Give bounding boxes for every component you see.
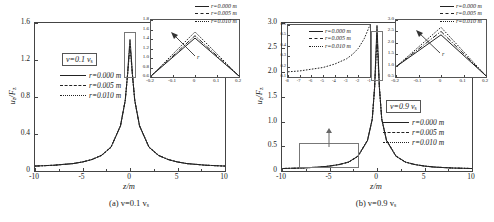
y-tick-label: 1.6 (8, 18, 30, 26)
legend-label: r=0.000 m (325, 28, 351, 34)
x-tick-label: 0 (127, 173, 131, 181)
y-tick-label: 0.4 (8, 129, 30, 137)
legend-item: r=0.010 m (440, 17, 482, 25)
inset-y-tick-label: 2.5 (380, 26, 394, 34)
x-tick-label: -5 (325, 173, 331, 181)
velocity-label-b: v=0.9 vs (386, 100, 421, 113)
x-tick (178, 168, 179, 171)
inset-x-tick-label: -1 (367, 77, 371, 85)
inset-y-tick-label: 0.1 (272, 72, 286, 80)
inset-y-tick-label: 1.6 (135, 25, 149, 33)
legend-item: r=0.000 m (309, 27, 351, 35)
y-tick (282, 146, 285, 147)
legend-label: r=0.000 m (456, 3, 482, 9)
inset-y-tick-label: 0.8 (135, 63, 149, 71)
inset-y-tick (288, 56, 290, 57)
panel-caption-a: (a) v=0.1 vs (109, 198, 149, 208)
inset-right-legend-b: r=0.000 m r=0.005 m r=0.010 m (440, 2, 482, 25)
x-tick (330, 168, 331, 171)
inset-x-tick-label: 0.2 (235, 77, 241, 85)
x-tick-minor (59, 169, 60, 171)
legend-label: r=0.005 m (211, 10, 237, 16)
y-tick-label: 0 (255, 166, 277, 174)
legend-item: r=0.005 m (440, 10, 482, 18)
x-axis-title-b: z/m (370, 181, 382, 191)
legend-item: r=0.000 m (383, 117, 444, 127)
inset-x-tick-label: -7 (297, 77, 301, 85)
y-tick (35, 23, 38, 24)
inset-plot-right-b: r (395, 19, 487, 78)
legend-label: r=0.010 m (456, 18, 482, 24)
inset-x-tick-label: -6 (309, 77, 313, 85)
inset-y-tick (396, 66, 398, 67)
inset-y-tick-label: 1.0 (135, 53, 149, 61)
inset-y-tick (396, 20, 398, 21)
inset-y-tick-label: 0.3 (272, 51, 286, 59)
y-tick-label: 0 (8, 166, 30, 174)
inset-y-tick-label: 1.5 (380, 49, 394, 57)
inset-x-tick-label: 0 (193, 77, 196, 85)
legend-label: r=0.010 m (211, 18, 237, 24)
x-tick-label: 5 (422, 173, 426, 181)
inset-x-tick-label: 0.2 (482, 77, 488, 85)
inset-left-legend-b: r=0.000 m r=0.005 m r=0.010 m (309, 27, 351, 50)
legend-b: r=0.000 m r=0.005 m r=0.010 m (383, 117, 444, 147)
legend-label: r=0.005 m (325, 35, 351, 41)
x-tick-minor (306, 169, 307, 171)
inset-x-tick-label: -0.1 (414, 77, 422, 85)
legend-item: r=0.010 m (383, 137, 444, 147)
x-tick-minor (401, 169, 402, 171)
x-axis-title-a: z/m (123, 181, 135, 191)
inset-y-tick-label: 2.0 (380, 38, 394, 46)
y-tick (282, 97, 285, 98)
svg-text:r: r (197, 54, 200, 60)
x-tick-label: 10 (220, 173, 228, 181)
x-tick-minor (201, 169, 202, 171)
inset-y-tick (151, 49, 153, 50)
inset-y-tick-label: 0.5 (272, 30, 286, 38)
inset-y-tick (151, 58, 153, 59)
x-tick-minor (448, 169, 449, 171)
inset-y-tick-label: 1.0 (380, 61, 394, 69)
legend-label: r=0.005 m (456, 10, 482, 16)
x-tick-label: 5 (175, 173, 179, 181)
inset-y-tick-label: 1.4 (135, 34, 149, 42)
inset-x-tick-label: 0 (439, 77, 442, 85)
panel-a: uz/Fz z/m (a) v=0.1 vs v=0.1 vs r=0.000 … (0, 0, 247, 222)
x-tick-label: -10 (276, 173, 286, 181)
x-tick (377, 168, 378, 171)
x-tick (472, 168, 473, 171)
legend-label: r=0.000 m (412, 118, 444, 127)
inset-x-tick-label: -3 (344, 77, 348, 85)
legend-label: r=0.005 m (89, 81, 121, 90)
x-tick-minor (154, 169, 155, 171)
legend-item: r=0.005 m (195, 10, 237, 18)
inset-right-curves-b: r (396, 20, 486, 77)
y-tick (35, 60, 38, 61)
x-tick-label: -10 (29, 173, 39, 181)
legend-item: r=0.005 m (309, 35, 351, 43)
legend-item: r=0.000 m (440, 2, 482, 10)
legend-label: r=0.010 m (325, 43, 351, 49)
x-tick-minor (353, 169, 354, 171)
legend-label: r=0.000 m (89, 71, 121, 80)
inset-y-tick (396, 54, 398, 55)
legend-item: r=0.000 m (60, 70, 121, 80)
panel-caption-b: (b) v=0.9 vs (356, 198, 396, 208)
inset-x-tick-label: -2 (355, 77, 359, 85)
legend-item: r=0.005 m (60, 80, 121, 90)
inset-y-tick-label: 0.2 (272, 62, 286, 70)
inset-y-tick (288, 35, 290, 36)
x-tick (425, 168, 426, 171)
inset-y-tick-label: 1.8 (135, 15, 149, 23)
legend-label: r=0.010 m (89, 91, 121, 100)
legend-item: r=0.010 m (60, 90, 121, 100)
inset-y-tick (151, 30, 153, 31)
y-tick (35, 134, 38, 135)
inset-x-tick-label: 0.1 (459, 77, 465, 85)
legend-label: r=0.000 m (211, 3, 237, 9)
legend-item: r=0.000 m (195, 2, 237, 10)
y-tick-label: 1.2 (8, 55, 30, 63)
x-tick (83, 168, 84, 171)
inset-y-tick (288, 25, 290, 26)
